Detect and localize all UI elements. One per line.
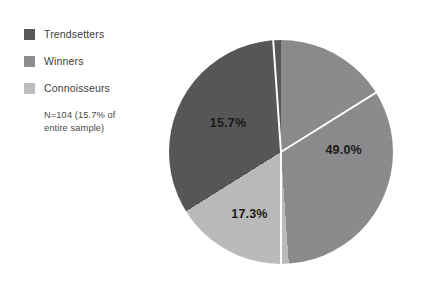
legend-item-connoisseurs: Connoisseurs	[24, 82, 174, 95]
sample-size-note: N=104 (15.7% of entire sample)	[44, 109, 156, 134]
legend-item-label: Trendsetters	[44, 29, 104, 40]
sample-size-note-line2: entire sample)	[44, 122, 156, 135]
legend-item-trendsetters: Trendsetters	[24, 28, 174, 41]
legend-item-label: Winners	[44, 56, 84, 67]
square-swatch-icon	[24, 56, 35, 67]
slice-separator	[280, 152, 282, 264]
chart-legend: Trendsetters Winners Connoisseurs N=104 …	[24, 28, 174, 134]
legend-item-winners: Winners	[24, 55, 174, 68]
pie-chart: 49.0% 17.3% 15.7%	[169, 40, 393, 264]
slice-value-label-trendsetters: 15.7%	[210, 116, 246, 130]
slice-value-label-winners: 49.0%	[325, 143, 361, 157]
square-swatch-icon	[24, 29, 35, 40]
square-swatch-icon	[24, 83, 35, 94]
slice-value-label-connoisseurs: 17.3%	[231, 207, 267, 221]
sample-size-note-line1: N=104 (15.7% of	[44, 109, 156, 122]
legend-item-label: Connoisseurs	[44, 83, 110, 94]
